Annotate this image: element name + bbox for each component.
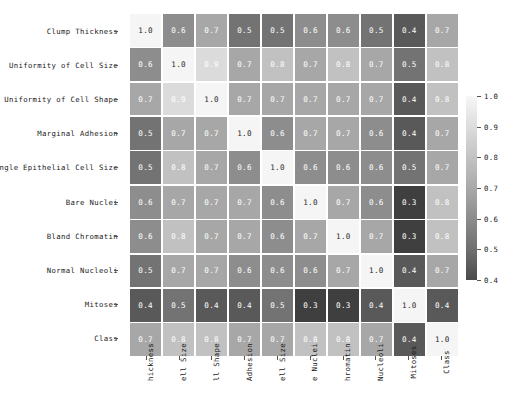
heatmap-cell: 0.6 — [229, 151, 260, 184]
heatmap-cell: 0.7 — [328, 83, 359, 116]
heatmap-cell: 0.6 — [361, 151, 392, 184]
heatmap-cell: 0.7 — [328, 255, 359, 288]
colorbar-tick-mark — [477, 157, 481, 158]
heatmap-cell: 0.5 — [130, 255, 161, 288]
y-axis-tick-row: Class — [94, 322, 118, 356]
colorbar-tick-label: 0.4 — [484, 276, 498, 285]
x-axis-tick-col: Adhesion — [228, 356, 261, 394]
heatmap-cell: 0.7 — [229, 83, 260, 116]
x-axis-tick-col: Nucleoli — [360, 356, 393, 394]
heatmap-cell: 0.7 — [427, 255, 458, 288]
heatmap-cell: 0.4 — [394, 14, 425, 47]
heatmap-cell: 0.9 — [196, 48, 227, 81]
heatmap-cell: 0.6 — [262, 255, 293, 288]
x-axis-label: ell Size — [179, 343, 188, 381]
x-axis-label: ell Size — [278, 343, 287, 381]
x-axis-tick-col: ell Size — [163, 356, 196, 394]
y-axis-tick-row: Mitoses — [85, 288, 118, 322]
y-axis-label: Uniformity of Cell Shape — [4, 95, 118, 104]
heatmap-cell: 0.4 — [196, 289, 227, 322]
heatmap-cell: 0.5 — [394, 48, 425, 81]
y-axis-label: Single Epithelial Cell Size — [0, 163, 118, 172]
heatmap-cell: 0.6 — [229, 255, 260, 288]
heatmap-cell: 1.0 — [196, 83, 227, 116]
colorbar-gradient — [466, 96, 477, 280]
y-axis-tick-row: Uniformity of Cell Size — [9, 48, 118, 82]
heatmap-cell: 0.7 — [196, 151, 227, 184]
heatmap-cell: 0.6 — [130, 220, 161, 253]
heatmap-cell: 0.8 — [427, 48, 458, 81]
heatmap-cell: 1.0 — [361, 255, 392, 288]
y-axis-label: Bland Chromatin — [47, 232, 118, 241]
x-axis-tick-col: Mitoses — [392, 356, 425, 394]
heatmap-cell: 0.8 — [427, 83, 458, 116]
heatmap-cell: 0.7 — [295, 220, 326, 253]
heatmap-cell: 0.5 — [130, 117, 161, 150]
x-axis-label: e Nuclei — [310, 343, 319, 381]
heatmap-cell: 0.3 — [394, 186, 425, 219]
heatmap-cell: 0.6 — [328, 14, 359, 47]
colorbar: 1.00.90.80.70.60.50.4 — [466, 96, 477, 280]
y-axis-tick-row: Uniformity of Cell Shape — [4, 82, 118, 116]
y-axis-tick-row: Bare Nuclei — [66, 185, 118, 219]
heatmap-cell: 0.4 — [130, 289, 161, 322]
heatmap-cell: 1.0 — [328, 220, 359, 253]
y-axis-tick-mark — [114, 304, 118, 305]
x-axis-tick-col: ll Shape — [196, 356, 229, 394]
heatmap-cell: 1.0 — [229, 117, 260, 150]
y-axis-tick-row: Normal Nucleoli — [47, 253, 118, 287]
heatmap-cell: 0.7 — [295, 48, 326, 81]
heatmap-cell: 0.4 — [229, 289, 260, 322]
colorbar-tick-mark — [477, 188, 481, 189]
heatmap-cell: 0.7 — [361, 48, 392, 81]
x-axis-label: Nucleoli — [376, 343, 385, 381]
y-axis-tick-mark — [114, 65, 118, 66]
x-axis-tick-col: ell Size — [261, 356, 294, 394]
heatmap-cell: 1.0 — [295, 186, 326, 219]
x-axis-label: Class — [442, 350, 451, 374]
colorbar-tick-label: 0.8 — [484, 153, 498, 162]
x-axis-label: ll Shape — [212, 343, 221, 381]
heatmap-cell: 0.6 — [130, 48, 161, 81]
heatmap-cell: 0.7 — [328, 186, 359, 219]
heatmap-cell: 0.9 — [163, 83, 194, 116]
heatmap-cell: 0.8 — [328, 48, 359, 81]
heatmap-cell: 0.8 — [163, 151, 194, 184]
y-axis-label: Clump Thickness — [47, 27, 118, 36]
heatmap-cell: 1.0 — [130, 14, 161, 47]
heatmap-cell: 0.7 — [229, 186, 260, 219]
y-axis-tick-row: Single Epithelial Cell Size — [0, 151, 118, 185]
heatmap-cell: 0.5 — [361, 14, 392, 47]
heatmap-cell: 0.7 — [361, 83, 392, 116]
heatmap-cell: 0.7 — [229, 220, 260, 253]
colorbar-tick-label: 0.6 — [484, 214, 498, 223]
y-axis-label: Bare Nuclei — [66, 198, 118, 207]
heatmap-cell: 0.7 — [361, 220, 392, 253]
heatmap-cell: 0.6 — [262, 220, 293, 253]
heatmap-cell: 0.6 — [262, 117, 293, 150]
y-axis-tick-mark — [114, 167, 118, 168]
heatmap-cell: 0.3 — [328, 289, 359, 322]
x-axis-label-group: hicknessell Sizell ShapeAdhesionell Size… — [130, 356, 458, 394]
y-axis-label-group: Clump ThicknessUniformity of Cell SizeUn… — [0, 14, 126, 356]
heatmap-cell: 0.5 — [394, 151, 425, 184]
heatmap-grid: 1.00.60.70.50.50.60.60.50.40.70.61.00.90… — [130, 14, 458, 356]
colorbar-tick-mark — [477, 280, 481, 281]
heatmap-cell: 1.0 — [163, 48, 194, 81]
heatmap-cell: 1.0 — [394, 289, 425, 322]
colorbar-tick-label: 1.0 — [484, 92, 498, 101]
heatmap-cell: 0.8 — [262, 48, 293, 81]
heatmap-cell: 0.5 — [229, 14, 260, 47]
y-axis-tick-mark — [114, 202, 118, 203]
heatmap-cell: 0.6 — [262, 186, 293, 219]
heatmap-cell: 0.4 — [394, 117, 425, 150]
heatmap-cell: 0.5 — [262, 289, 293, 322]
heatmap-cell: 0.7 — [196, 220, 227, 253]
y-axis-tick-mark — [114, 31, 118, 32]
heatmap-cell: 0.7 — [196, 186, 227, 219]
colorbar-tick-label: 0.7 — [484, 184, 498, 193]
y-axis-label: Normal Nucleoli — [47, 266, 118, 275]
colorbar-tick-label: 0.5 — [484, 245, 498, 254]
x-axis-tick-col: hickness — [130, 356, 163, 394]
heatmap-cell: 0.7 — [130, 83, 161, 116]
